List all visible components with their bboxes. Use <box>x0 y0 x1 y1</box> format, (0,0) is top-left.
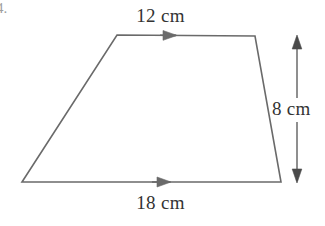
top-side-parallel-arrow-icon <box>160 31 177 41</box>
bottom-side-parallel-arrow-icon <box>152 177 171 187</box>
top-side-length-label: 12 cm <box>0 6 322 25</box>
trapezoid-outline <box>22 35 281 182</box>
height-length-label: 8 cm <box>272 99 311 118</box>
trapezoid-figure: 4. 12 cm 18 cm 8 cm <box>0 0 325 226</box>
bottom-side-length-label: 18 cm <box>0 193 322 212</box>
